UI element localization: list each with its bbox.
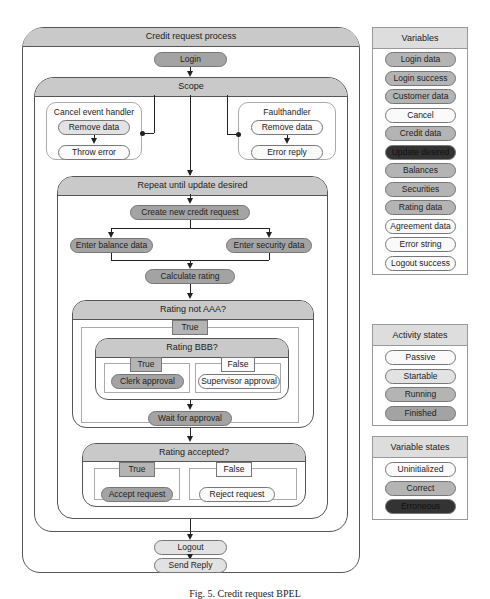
connector-dot	[140, 131, 145, 136]
activity-logout[interactable]: Logout	[154, 540, 227, 555]
activity-throw-error[interactable]: Throw error	[58, 145, 130, 160]
activity-enter-security-data[interactable]: Enter security data	[226, 238, 312, 253]
variable-login-success[interactable]: Login success	[385, 71, 456, 86]
variable-states-title: Variable states	[373, 437, 467, 458]
variable-balances[interactable]: Balances	[385, 163, 456, 178]
activity-clerk-approval[interactable]: Clerk approval	[111, 374, 184, 389]
variable-login-data[interactable]: Login data	[385, 52, 456, 67]
variables-title: Variables	[373, 28, 467, 49]
state-passive: Passive	[385, 350, 456, 365]
repeat-title: Repeat until update desired	[58, 177, 327, 196]
activity-login[interactable]: Login	[154, 52, 227, 67]
variable-cancel[interactable]: Cancel	[385, 108, 456, 123]
state-correct: Correct	[385, 481, 456, 496]
activity-error-reply[interactable]: Error reply	[251, 145, 323, 160]
cancel-handler-title: Cancel event handler	[47, 105, 141, 119]
case-label-false-bbb: False	[221, 357, 255, 372]
activity-create-credit-request[interactable]: Create new credit request	[130, 205, 250, 220]
state-uninitialized: Uninitialized	[385, 462, 456, 477]
activity-reject-request[interactable]: Reject request	[199, 487, 275, 502]
state-running: Running	[385, 387, 456, 402]
variable-securities[interactable]: Securities	[385, 182, 456, 197]
activity-remove-data-cancel[interactable]: Remove data	[58, 120, 130, 135]
state-startable: Startable	[385, 369, 456, 384]
activity-supervisor-approval[interactable]: Supervisor approval	[198, 374, 280, 389]
variable-update-desired[interactable]: Update desired	[385, 145, 456, 160]
state-finished: Finished	[385, 406, 456, 421]
rating-not-aaa-title: Rating not AAA?	[73, 301, 313, 320]
variable-logout-success[interactable]: Logout success	[385, 256, 456, 271]
process-title: Credit request process	[23, 28, 359, 47]
scope-title: Scope	[35, 78, 347, 97]
variable-rating-data[interactable]: Rating data	[385, 200, 456, 215]
activity-accept-request[interactable]: Accept request	[101, 487, 173, 502]
case-label-true: True	[172, 320, 208, 335]
activity-send-reply[interactable]: Send Reply	[154, 558, 227, 573]
variable-credit-data[interactable]: Credit data	[385, 126, 456, 141]
activity-calculate-rating[interactable]: Calculate rating	[145, 269, 235, 284]
activity-remove-data-fault[interactable]: Remove data	[251, 120, 323, 135]
activity-enter-balance-data[interactable]: Enter balance data	[70, 238, 153, 253]
fault-handler-title: Faulthandler	[239, 105, 335, 119]
rating-bbb-title: Rating BBB?	[96, 339, 288, 358]
variable-error-string[interactable]: Error string	[385, 237, 456, 252]
state-erroneous: Erroneous	[385, 499, 456, 514]
figure-caption: Fig. 5. Credit request BPEL	[0, 588, 490, 599]
variable-agreement-data[interactable]: Agreement data	[385, 219, 456, 234]
variable-customer-data[interactable]: Customer data	[385, 89, 456, 104]
case-label-false-accepted: False	[216, 462, 252, 477]
activity-states-title: Activity states	[373, 325, 467, 346]
rating-accepted-title: Rating accepted?	[83, 444, 305, 462]
case-label-true-bbb: True	[130, 357, 162, 372]
case-label-true-accepted: True	[119, 462, 155, 477]
activity-wait-for-approval[interactable]: Wait for approval	[148, 411, 232, 426]
